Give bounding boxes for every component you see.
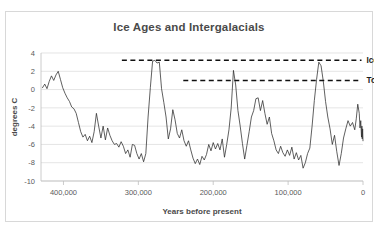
y-tick-label: -10 <box>24 177 35 186</box>
x-tick-label: 100,000 <box>275 188 302 197</box>
x-tick-label: 400,000 <box>50 188 77 197</box>
y-tick-label: -8 <box>28 158 35 167</box>
y-tick-label: 0 <box>31 85 35 94</box>
y-axis-title: degrees C <box>10 97 19 136</box>
x-tick-label: 200,000 <box>200 188 227 197</box>
y-tick-label: -4 <box>28 122 35 131</box>
x-tick-label: 300,000 <box>125 188 152 197</box>
y-axis-ticks: 420-2-4-6-8-10 <box>24 49 35 186</box>
annotation-label: Today <box>367 76 374 85</box>
chart-container: Ice Ages and Intergalacials 420-2-4-6-8-… <box>5 11 373 222</box>
x-axis-ticks: 400,000300,000200,000100,0000 <box>50 181 365 197</box>
y-tick-label: -2 <box>28 104 35 113</box>
data-series-temperature <box>43 60 364 168</box>
chart-plot-area: 420-2-4-6-8-10 400,000300,000200,000100,… <box>6 12 374 223</box>
gridlines <box>41 53 363 181</box>
annotation-label: Ice Age Highs <box>367 56 374 65</box>
x-tick-label: 0 <box>361 188 365 197</box>
temperature-line <box>43 60 364 168</box>
y-tick-label: 4 <box>31 49 35 58</box>
x-axis-title: Years before present <box>162 207 241 216</box>
y-tick-label: -6 <box>28 140 35 149</box>
y-tick-label: 2 <box>31 67 35 76</box>
